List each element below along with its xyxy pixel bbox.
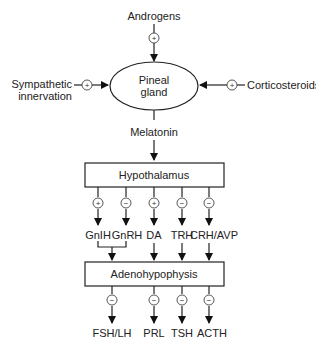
hormone-prl: PRL [143,327,164,339]
hypothalamus-label: Hypothalamus [119,169,189,181]
factor-gnih: GnIH [85,229,111,241]
svg-text:−: − [180,199,185,208]
sympathetic-label: Sympathetic innervation [4,78,72,102]
svg-text:+: + [230,81,235,90]
hormone-tsh: TSH [171,327,193,339]
svg-text:+: + [152,199,157,208]
sign-top: + [152,34,157,43]
pineal-label: Pineal gland [139,74,170,98]
adenohypophysis-label: Adenohypophysis [111,268,198,280]
androgens-label: Androgens [127,10,180,22]
svg-text:−: − [152,296,157,305]
corticosteroids-label: Corticosteroids [247,79,316,91]
svg-text:−: − [124,199,129,208]
factor-da: DA [146,229,161,241]
svg-text:−: − [207,199,212,208]
svg-text:−: − [207,296,212,305]
hormone-acth: ACTH [197,327,227,339]
svg-text:+: + [96,199,101,208]
hormone-fsh-lh: FSH/LH [92,327,131,339]
factor-crh-avp: CRH/AVP [190,229,238,241]
svg-text:−: − [110,296,115,305]
svg-text:−: − [180,296,185,305]
factor-gnrh: GnRH [112,229,143,241]
melatonin-label: Melatonin [130,126,178,138]
svg-text:+: + [85,81,90,90]
